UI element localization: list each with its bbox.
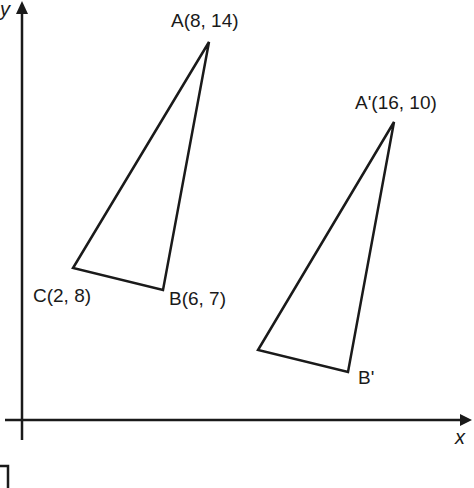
- coordinate-plane: y x A(8, 14) B(6, 7) C(2, 8) A'(16, 10) …: [0, 0, 474, 488]
- triangle-image: [258, 122, 394, 372]
- answer-box-fragment: [0, 466, 8, 488]
- vertex-label-a: A(8, 14): [171, 10, 239, 31]
- vertex-label-b-prime: B': [358, 367, 374, 388]
- vertex-label-a-prime: A'(16, 10): [355, 92, 437, 113]
- x-axis-arrow-icon: [460, 414, 472, 426]
- vertex-label-c: C(2, 8): [33, 285, 91, 306]
- y-axis-arrow-icon: [16, 1, 28, 14]
- vertex-label-b: B(6, 7): [169, 288, 226, 309]
- y-axis-label: y: [0, 0, 11, 20]
- triangle-abc: [73, 42, 209, 290]
- x-axis-label: x: [454, 426, 466, 448]
